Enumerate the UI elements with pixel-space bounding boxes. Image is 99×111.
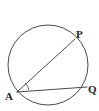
- vertex-label-q: Q: [88, 83, 97, 95]
- vertex-label-p: P: [76, 28, 83, 40]
- geometry-figure: A P Q: [0, 0, 99, 111]
- vertex-label-a: A: [5, 90, 13, 102]
- chord-aq-line: [17, 87, 87, 92]
- geometry-canvas: A P Q: [0, 0, 99, 111]
- angle-arc-a: [25, 83, 29, 90]
